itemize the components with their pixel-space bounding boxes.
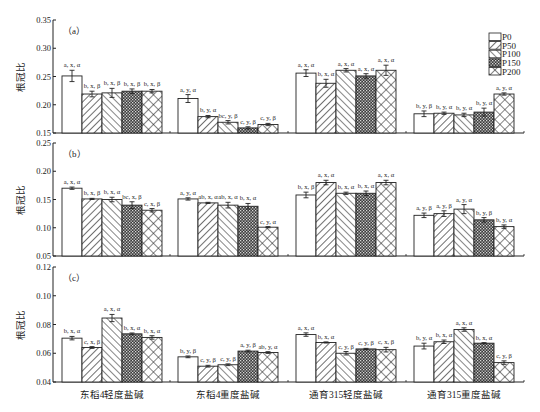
- significance-label: b, x, β: [84, 82, 101, 89]
- significance-label: c, y, β: [358, 339, 374, 346]
- significance-label: b, x, β: [104, 79, 121, 86]
- bar-p150: [356, 193, 376, 256]
- bar-p100: [218, 205, 238, 256]
- category-label: 通育315轻度盐碱: [309, 389, 383, 400]
- bar-p100: [454, 330, 474, 382]
- significance-label: b, x, α: [318, 333, 335, 340]
- bar-p50: [434, 113, 454, 133]
- y-tick-label: 0.20: [36, 166, 51, 176]
- significance-label: ab, x, α: [218, 193, 238, 200]
- bar-p0: [296, 335, 316, 382]
- y-axis-label: 根冠比: [15, 185, 26, 215]
- category-label: 东稻4轻度盐碱: [80, 389, 145, 400]
- bar-p50: [82, 199, 102, 256]
- bar-p100: [102, 200, 122, 257]
- significance-label: c, x, β: [378, 338, 395, 345]
- y-tick-label: 0.25: [36, 138, 51, 148]
- y-tick-label: 0.20: [36, 100, 51, 110]
- bar-p0: [62, 188, 82, 256]
- category-label: 通育315重度盐碱: [427, 389, 501, 400]
- significance-label: c, y, β: [338, 343, 354, 350]
- legend-swatch: [489, 67, 501, 75]
- bar-p50: [316, 183, 336, 256]
- significance-label: c, y, β: [240, 118, 256, 125]
- significance-label: a, y, α: [496, 84, 512, 91]
- bar-group: a, x, αb, x, αc, y, βc, y, βc, x, β: [296, 324, 396, 382]
- bar-group: a, x, αb, x, βb, x, βb, x, βb, x, β: [62, 61, 162, 133]
- bar-p100: [218, 365, 238, 382]
- y-tick-label: 0.25: [36, 72, 51, 82]
- bar-p200: [494, 363, 514, 382]
- panel-label: （a）: [63, 26, 85, 36]
- bar-group: b, y, αb, x, αa, x, αb, x, αc, y, β: [414, 319, 514, 382]
- bar-group: a, y, αb, y, αbc, y, βc, y, βc, y, β: [178, 86, 278, 133]
- significance-label: a, x, α: [358, 65, 375, 72]
- panels: 0.150.200.250.300.35（a）根冠比a, x, αb, x, β…: [15, 15, 524, 387]
- significance-label: a, x, α: [104, 305, 121, 312]
- significance-label: b, x, α: [358, 182, 375, 189]
- bar-p200: [376, 183, 396, 256]
- bar-p150: [474, 220, 494, 256]
- bar-group: b, y, βc, y, βc, y, βa, y, βab, y, α: [178, 341, 278, 382]
- y-tick-label: 0.08: [36, 320, 51, 330]
- significance-label: b, x, α: [240, 194, 257, 201]
- x-axis-category-labels: 东稻4轻度盐碱东稻4重度盐碱通育315轻度盐碱通育315重度盐碱: [80, 389, 502, 400]
- bar-p200: [494, 94, 514, 133]
- significance-label: b, x, α: [436, 331, 453, 338]
- bar-group: a, x, αb, x, βb, x, αbc, x, βc, x, β: [62, 178, 162, 256]
- significance-label: b, y, β: [416, 102, 433, 109]
- significance-label: c, x, β: [84, 338, 101, 345]
- significance-label: c, y, β: [220, 355, 236, 362]
- bar-p0: [414, 215, 434, 256]
- bar-p100: [336, 353, 356, 382]
- bar-p0: [414, 346, 434, 382]
- bar-p150: [356, 76, 376, 133]
- bar-p0: [62, 338, 82, 382]
- significance-label: a, y, α: [180, 86, 196, 93]
- significance-label: b, x, α: [124, 324, 141, 331]
- bar-p200: [494, 227, 514, 256]
- bar-p50: [316, 342, 336, 382]
- significance-label: b, x, α: [144, 327, 161, 334]
- legend-swatch: [489, 50, 501, 58]
- y-tick-label: 0.15: [36, 128, 51, 138]
- significance-label: b, y, α: [456, 104, 473, 111]
- bar-p50: [82, 94, 102, 133]
- y-axis-label: 根冠比: [15, 310, 26, 340]
- significance-label: c, x, β: [144, 200, 161, 207]
- panel-c: 0.040.060.080.100.12（c）根冠比b, x, αc, x, β…: [15, 262, 524, 387]
- legend-swatch: [489, 33, 501, 41]
- significance-label: bc, y, β: [218, 112, 238, 119]
- significance-label: b, y, β: [180, 347, 197, 354]
- bar-p50: [434, 342, 454, 382]
- panel-label: （c）: [63, 273, 85, 283]
- significance-label: c, y, β: [496, 352, 512, 359]
- bar-p150: [238, 206, 258, 256]
- bar-p150: [122, 91, 142, 133]
- panel-b: 0.050.100.150.200.25（b）根冠比a, x, αb, x, β…: [15, 138, 524, 261]
- bar-group: a, y, αab, x, αab, x, αb, x, αc, y, α: [178, 189, 278, 256]
- significance-label: b, y, α: [476, 99, 493, 106]
- significance-label: b, x, α: [338, 183, 355, 190]
- bar-p0: [178, 199, 198, 256]
- significance-label: c, y, β: [260, 114, 276, 121]
- bar-p50: [82, 348, 102, 383]
- bar-p200: [142, 337, 162, 382]
- y-tick-label: 0.12: [36, 262, 51, 272]
- category-label: 东稻4重度盐碱: [196, 389, 261, 400]
- significance-label: b, x, β: [144, 80, 161, 87]
- bar-p200: [258, 227, 278, 256]
- significance-label: a, x, α: [298, 324, 315, 331]
- bar-group: a, y, βa, y, βa, y, αb, y, βb, y, α: [414, 196, 514, 256]
- bar-p50: [198, 366, 218, 382]
- significance-label: a, x, α: [378, 171, 395, 178]
- significance-label: c, y, β: [200, 356, 216, 363]
- bar-p150: [122, 334, 142, 382]
- y-tick-label: 0.10: [36, 223, 51, 233]
- significance-label: a, x, α: [378, 56, 395, 63]
- significance-label: bc, x, β: [122, 193, 142, 200]
- y-tick-label: 0.35: [36, 15, 51, 25]
- y-tick-label: 0.10: [36, 291, 51, 301]
- legend-swatch: [489, 59, 501, 67]
- significance-label: b, x, β: [84, 189, 101, 196]
